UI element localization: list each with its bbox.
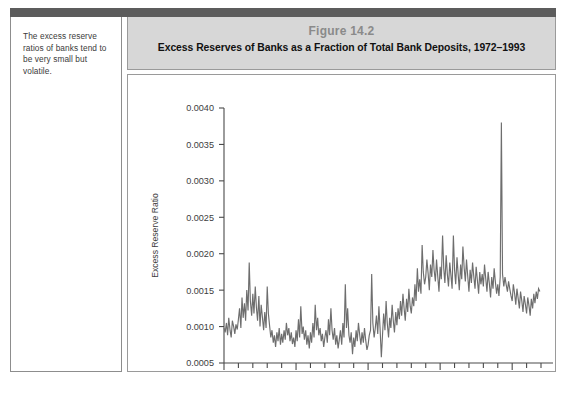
- y-axis-title-text: Excess Reserve Ratio: [150, 193, 160, 278]
- data-series: [224, 123, 540, 358]
- margin-note-text: The excess reserve ratios of banks tend …: [23, 31, 115, 77]
- top-rule-divider: [10, 8, 556, 17]
- x-axis: '72'77'82'87'92: [218, 363, 553, 371]
- y-tick-label: 0.0030: [186, 176, 214, 186]
- y-axis-title: Excess Reserve Ratio: [150, 193, 160, 278]
- y-tick-label: 0.0040: [186, 103, 214, 113]
- y-tick-label: 0.0015: [186, 286, 214, 296]
- figure-panel: Figure 14.2 Excess Reserves of Banks as …: [127, 17, 556, 372]
- figure-title: Excess Reserves of Banks as a Fraction o…: [128, 42, 555, 53]
- figure-caption-bar: Figure 14.2 Excess Reserves of Banks as …: [127, 17, 556, 70]
- excess-reserve-ratio-chart: 0.00050.00100.00150.00200.00250.00300.00…: [128, 75, 555, 371]
- y-tick-label: 0.0035: [186, 140, 214, 150]
- y-axis: 0.00050.00100.00150.00200.00250.00300.00…: [186, 103, 224, 368]
- y-tick-label: 0.0010: [186, 322, 214, 332]
- y-tick-label: 0.0020: [186, 249, 214, 259]
- series-line-excess-reserve-ratio: [224, 123, 540, 358]
- y-tick-label: 0.0005: [186, 358, 214, 368]
- figure-page: The excess reserve ratios of banks tend …: [0, 0, 564, 397]
- y-tick-label: 0.0025: [186, 213, 214, 223]
- plot-frame: 0.00050.00100.00150.00200.00250.00300.00…: [127, 74, 556, 372]
- figure-number: Figure 14.2: [128, 24, 555, 38]
- margin-note-panel: The excess reserve ratios of banks tend …: [10, 17, 122, 372]
